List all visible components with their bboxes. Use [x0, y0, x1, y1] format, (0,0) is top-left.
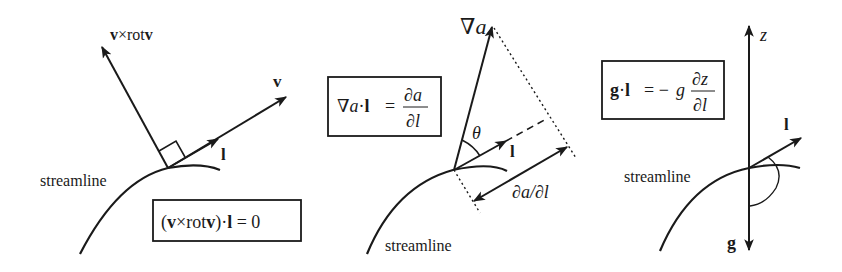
label-streamline: streamline [385, 237, 452, 254]
vector-l [168, 139, 218, 168]
right-angle-mark [159, 141, 185, 157]
label-l: l [221, 145, 226, 164]
vector-v-cross-rotv [102, 47, 168, 168]
equation-2-lhs: ∇a·l [337, 96, 370, 116]
equation-3-lhs: g·l [610, 80, 630, 100]
diagram-canvas: v×rotv v l streamline (v×rotv)·l = 0 ∇a … [0, 0, 842, 272]
panel-gradient-projection: ∇a θ l ∂a/∂l streamline ∇a·l = ∂a ∂l [328, 14, 576, 254]
equation-3-g: g [676, 80, 685, 100]
label-da-dl: ∂a/∂l [512, 182, 549, 202]
dotted-projection-bottom [454, 170, 480, 213]
label-v: v [273, 72, 282, 91]
label-g: g [727, 233, 736, 253]
equation-3-den: ∂l [693, 95, 707, 115]
dashed-extension [506, 118, 548, 141]
panel-streamline-normal: v×rotv v l streamline (v×rotv)·l = 0 [40, 26, 301, 254]
equation-3-eq: = − [644, 80, 669, 100]
label-l: l [510, 142, 515, 161]
equation-2-den: ∂l [406, 111, 420, 131]
label-streamline: streamline [624, 168, 691, 185]
dotted-projection-top [494, 28, 576, 158]
label-z: z [759, 25, 767, 45]
panel-gravity: z l g streamline g·l = − g ∂z ∂l [602, 25, 801, 253]
equation-2-num: ∂a [404, 85, 422, 105]
equation-2-eq: = [385, 96, 395, 116]
label-gradient-a: ∇a [460, 14, 486, 39]
equation-3-num: ∂z [692, 69, 708, 89]
label-streamline: streamline [40, 172, 107, 189]
label-theta: θ [472, 123, 481, 143]
label-v-cross-rotv: v×rotv [110, 26, 153, 43]
label-l: l [784, 115, 789, 134]
vector-gradient-a [454, 27, 492, 170]
equation-1: (v×rotv)·l = 0 [161, 212, 260, 233]
